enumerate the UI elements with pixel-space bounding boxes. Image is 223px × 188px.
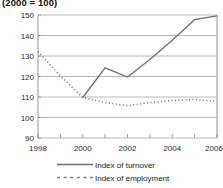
x-tick-2004: 2004 <box>163 144 181 153</box>
y-tick-110: 110 <box>21 93 34 102</box>
y-tick-140: 140 <box>21 32 35 41</box>
legend-label-turnover: Index of turnover <box>95 161 155 170</box>
x-tick-marks <box>38 134 217 138</box>
y-tick-120: 120 <box>21 73 35 82</box>
chart-container: (2000 = 100) <box>0 0 223 188</box>
series-line-index-of-employment <box>38 51 217 105</box>
y-tick-100: 100 <box>21 114 35 123</box>
x-axis-labels: 1998 2000 2002 2004 2006 <box>29 144 223 153</box>
y-tick-130: 130 <box>21 52 35 61</box>
x-tick-2006: 2006 <box>205 144 223 153</box>
y-tick-150: 150 <box>21 11 35 20</box>
legend-label-employment: Index of employment <box>95 174 170 183</box>
x-tick-1998: 1998 <box>29 144 47 153</box>
series-line-index-of-turnover <box>83 16 217 98</box>
chart-legend: Index of turnover Index of employment <box>57 161 170 183</box>
y-axis-labels: 150 140 130 120 110 100 90 <box>21 11 35 143</box>
x-tick-2002: 2002 <box>119 144 137 153</box>
x-tick-2000: 2000 <box>74 144 92 153</box>
y-tick-90: 90 <box>25 134 34 143</box>
chart-plot-svg: 150 140 130 120 110 100 90 1998 2000 200… <box>0 0 223 188</box>
